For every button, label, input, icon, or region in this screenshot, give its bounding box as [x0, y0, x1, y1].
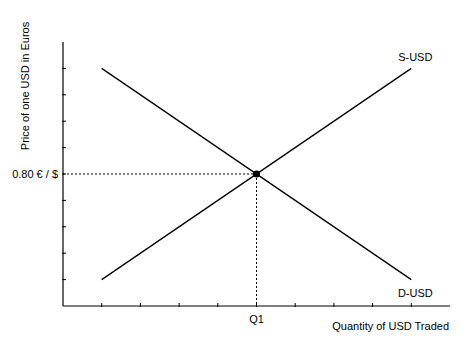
series-label-d-usd: D-USD [398, 287, 433, 299]
equilibrium-price-label: 0.80 € / $ [12, 168, 58, 180]
equilibrium-point [253, 170, 260, 177]
series-label-s-usd: S-USD [398, 51, 432, 63]
y-axis-label: Price of one USD in Euros [19, 21, 31, 150]
x-axis-label: Quantity of USD Traded [332, 320, 449, 332]
equilibrium-quantity-label: Q1 [249, 313, 264, 325]
labels: Price of one USD in Euros Quantity of US… [12, 21, 449, 332]
chart: Price of one USD in Euros Quantity of US… [0, 0, 463, 346]
